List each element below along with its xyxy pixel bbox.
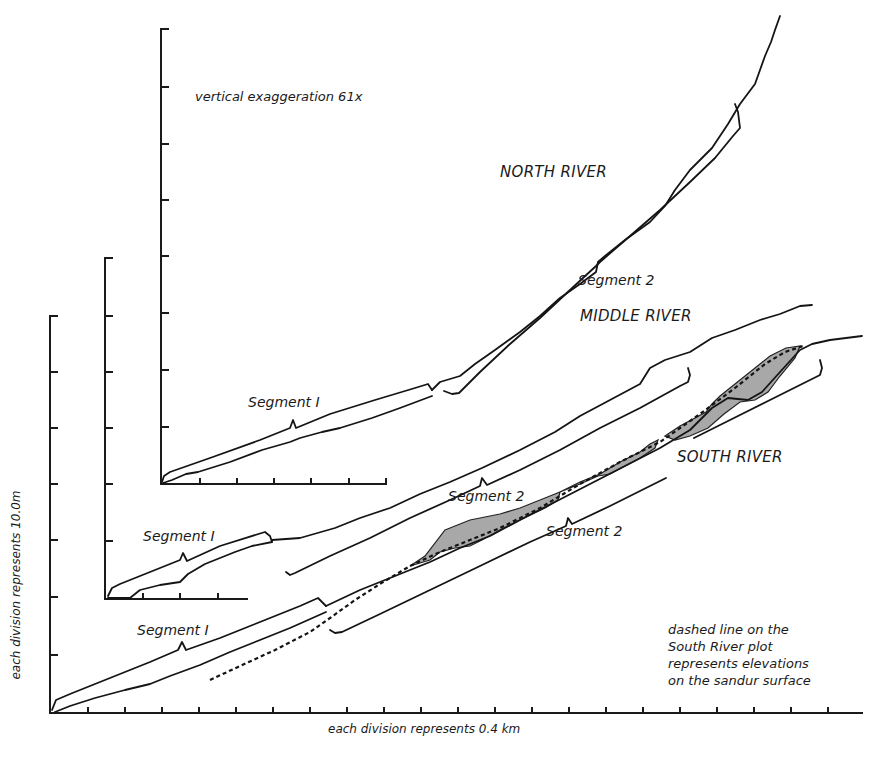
middle-river-segment-1-label: Segment I bbox=[143, 528, 215, 544]
north-river-segment-2-label: Segment 2 bbox=[578, 272, 654, 288]
south-river-segment-1-label: Segment I bbox=[137, 622, 209, 638]
sandur-note-line-3: represents elevations bbox=[668, 655, 868, 672]
sandur-note: dashed line on the South River plot repr… bbox=[668, 621, 868, 689]
y-axis-label: each division represents 10.0m bbox=[9, 485, 23, 685]
north-river-segment-1-label: Segment I bbox=[248, 394, 320, 410]
sandur-note-line-4: on the sandur surface bbox=[668, 672, 868, 689]
sandur-note-line-1: dashed line on the bbox=[668, 621, 868, 638]
north-river-profiles bbox=[162, 16, 780, 483]
south-river-segment-2-label: Segment 2 bbox=[546, 523, 622, 539]
sandur-note-line-2: South River plot bbox=[668, 638, 868, 655]
middle-river-axes bbox=[105, 258, 247, 599]
vertical-exaggeration-label: vertical exaggeration 61x bbox=[195, 88, 362, 105]
north-river-label: NORTH RIVER bbox=[500, 163, 607, 181]
x-axis-label: each division represents 0.4 km bbox=[328, 722, 520, 736]
south-river-label: SOUTH RIVER bbox=[677, 448, 783, 466]
middle-river-segment-2-label: Segment 2 bbox=[448, 488, 524, 504]
middle-river-label: MIDDLE RIVER bbox=[580, 307, 692, 325]
